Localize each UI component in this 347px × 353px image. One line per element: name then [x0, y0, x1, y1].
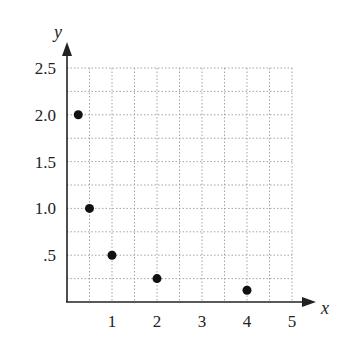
x-tick-label: 3	[198, 312, 207, 331]
x-axis-label: x	[320, 298, 329, 318]
x-axis-arrow-icon	[302, 297, 316, 307]
y-tick-label: .5	[43, 246, 56, 265]
y-tick-label: 2.0	[35, 106, 56, 125]
tick-labels: 12345.51.01.52.02.5	[35, 59, 297, 331]
y-axis-label: y	[52, 22, 62, 42]
y-tick-label: 2.5	[35, 59, 56, 78]
data-point	[153, 274, 162, 283]
data-point	[74, 110, 83, 119]
scatter-chart: y x 12345.51.01.52.02.5	[0, 0, 347, 353]
data-point	[85, 204, 94, 213]
axes: y x	[52, 22, 329, 318]
y-axis-arrow-icon	[62, 42, 72, 56]
x-tick-label: 1	[108, 312, 117, 331]
y-tick-label: 1.5	[35, 153, 56, 172]
x-tick-label: 5	[288, 312, 297, 331]
x-tick-label: 4	[243, 312, 252, 331]
grid-lines	[67, 68, 292, 302]
data-point	[243, 286, 252, 295]
y-tick-label: 1.0	[35, 199, 56, 218]
x-tick-label: 2	[153, 312, 162, 331]
data-point	[108, 251, 117, 260]
